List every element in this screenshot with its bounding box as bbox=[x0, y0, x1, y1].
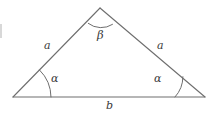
label-side-a-left: a bbox=[44, 40, 51, 51]
triangle-side-right bbox=[100, 8, 205, 97]
label-side-a-right: a bbox=[157, 40, 164, 51]
angle-arc-alpha-right bbox=[175, 77, 183, 97]
label-angle-alpha-left: α bbox=[51, 73, 58, 84]
label-angle-alpha-right: α bbox=[154, 73, 161, 84]
label-side-b: b bbox=[106, 100, 113, 111]
geometry-figure: a a b β α α bbox=[0, 0, 216, 116]
label-angle-beta: β bbox=[97, 30, 104, 42]
angle-arc-alpha-left bbox=[40, 70, 51, 97]
